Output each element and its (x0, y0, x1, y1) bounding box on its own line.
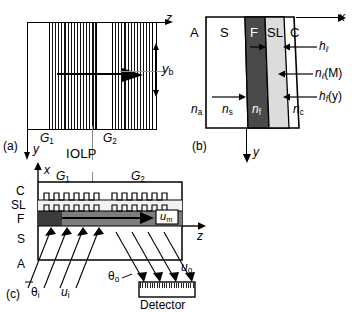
axis-y-label-b: y (253, 146, 259, 158)
grating-g1-right-edge (96, 23, 97, 129)
panel-b-layer-A: A (190, 26, 199, 39)
panel-b-layer-S: S (220, 26, 229, 39)
panel-b-tag: (b) (192, 140, 207, 152)
panel-c-layer-A: A (17, 258, 25, 270)
film-launch-region (38, 211, 62, 226)
panel-c-input-beam: ui (61, 286, 70, 300)
panel-a-g1-label: G1 (40, 132, 54, 146)
beam-width-label: yb (162, 62, 173, 77)
panel-c-layer-F: F (17, 213, 24, 225)
panel-c-layer-S: S (17, 233, 25, 245)
axis-z-a (95, 22, 165, 23)
angle-out-tick (122, 274, 132, 278)
grating-g1-stripes (49, 23, 96, 129)
beam-center-guide (120, 71, 165, 72)
grating-g2-left-edge (112, 23, 113, 129)
grating-g1-left-edge (49, 23, 50, 129)
panel-c-tag: (c) (6, 288, 20, 300)
axis-y-a (27, 130, 28, 152)
axis-x-label-b: x (339, 11, 345, 23)
panel-b-callout-h-ell: hℓ (319, 40, 328, 54)
iolp-label: IOLP (66, 147, 97, 160)
axis-z-label-a: z (166, 12, 172, 24)
axis-x-label-c: x (44, 164, 50, 176)
panel-c-layer-C: C (16, 185, 25, 197)
panel-a-tag: (a) (3, 140, 18, 152)
detector-active-surface (140, 283, 194, 288)
panel-b-index-na: na (191, 103, 202, 117)
axis-x-b (296, 17, 338, 18)
panel-b-index-nf: nf (252, 103, 261, 117)
grating-g2-right-edge (152, 23, 153, 129)
panel-b-index-nc: nc (293, 103, 304, 117)
panel-b-layer-C: C (290, 26, 299, 39)
panel-b-layer-F: F (250, 26, 258, 39)
axis-x-c-arrowhead (34, 162, 42, 170)
panel-b-callout-hf-y: hf(y) (319, 90, 342, 104)
panel-c-g2-label: G2 (131, 170, 145, 184)
beam-width-arrow (155, 50, 156, 90)
panel-a-frame (27, 22, 157, 130)
beam-arrow-a (57, 73, 123, 75)
axis-y-b (246, 128, 247, 154)
axis-z-label-c: z (197, 230, 203, 242)
panel-a-g2-label: G2 (103, 132, 117, 146)
panel-b-layer-SL: SL (267, 26, 283, 39)
panel-c-angle-out: θo (108, 270, 119, 284)
panel-c: x z C SL F S A G1 G2 um θi ui θo uo Dete… (0, 160, 210, 308)
axis-y-label-a: y (33, 143, 39, 155)
panel-c-mode-label: um (160, 211, 172, 223)
panel-b: x y A S F SL C na ns nf nc hℓ nℓ(M) hf(y… (186, 0, 352, 168)
panel-b-index-ns: ns (222, 103, 233, 117)
panel-c-g1-label: G1 (56, 170, 70, 184)
panel-c-layer-SL: SL (11, 199, 26, 211)
panel-c-angle-in: θi (31, 286, 40, 300)
detector-label: Detector (140, 299, 185, 311)
panel-b-callout-n-ell-M: nℓ(M) (315, 67, 342, 81)
panel-a: z y yb G1 G2 (a) (0, 0, 186, 168)
panel-c-output-beam: uo (181, 261, 192, 275)
